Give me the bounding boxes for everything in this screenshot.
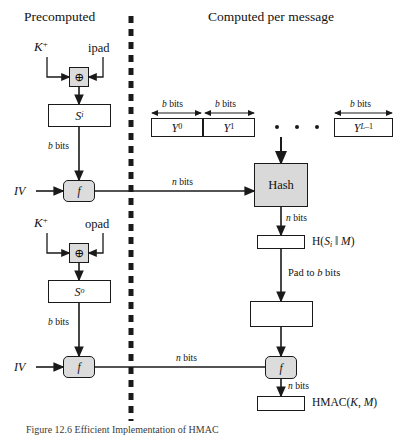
label-h-si-m: H(Si ‖ M) [312,236,354,249]
block-si: Si [48,104,111,127]
header-computed-per-message: Computed per message [208,10,334,24]
ellipsis-dot-1 [275,125,279,129]
header-precomputed: Precomputed [24,10,95,24]
block-so: So [48,280,111,303]
ellipsis-dot-2 [295,125,299,129]
label-key-plus-ipad: K+ [34,40,48,53]
label-key-plus-opad: K+ [34,216,48,229]
xor-gate-opad: ⊕ [69,243,89,263]
figure-canvas: Precomputed Computed per message K+ ipad… [0,0,402,435]
label-b-bits-y0: b bits [162,100,183,110]
figure-caption: Figure 12.6 Efficient Implementation of … [26,424,219,435]
label-n-bits-to-hash: n bits [172,178,193,188]
block-h-si-m-slab [257,235,305,249]
f-node-opad: f [63,356,95,378]
f-node-ipad: f [63,180,95,202]
label-n-bits-final: n bits [288,382,309,392]
block-y0: Y0 [151,118,203,137]
ellipsis-dot-3 [315,125,319,129]
xor-gate-ipad: ⊕ [69,67,89,87]
wiring-layer [0,0,402,435]
label-b-bits-y1: b bits [215,100,236,110]
label-iv-bottom: IV [14,361,25,373]
label-si-b-bits: b bits [48,142,69,152]
block-yl-1: YL–1 [334,118,393,137]
block-hash: Hash [254,163,308,207]
label-pad-to-b-bits: Pad to b bits [288,268,340,279]
label-ipad: ipad [88,42,110,55]
label-hmac-result: HMAC(K, M) [312,397,377,409]
block-padded [250,301,313,327]
label-n-bits-hash-out: n bits [286,214,307,224]
label-so-b-bits: b bits [48,318,69,328]
label-iv-top: IV [14,185,25,197]
block-hmac-slab [257,396,305,411]
label-opad: opad [85,218,109,231]
label-n-bits-to-f2: n bits [176,354,197,364]
f-node-final: f [265,356,297,379]
label-b-bits-yl1: b bits [350,100,371,110]
block-y1: Y1 [203,118,255,137]
